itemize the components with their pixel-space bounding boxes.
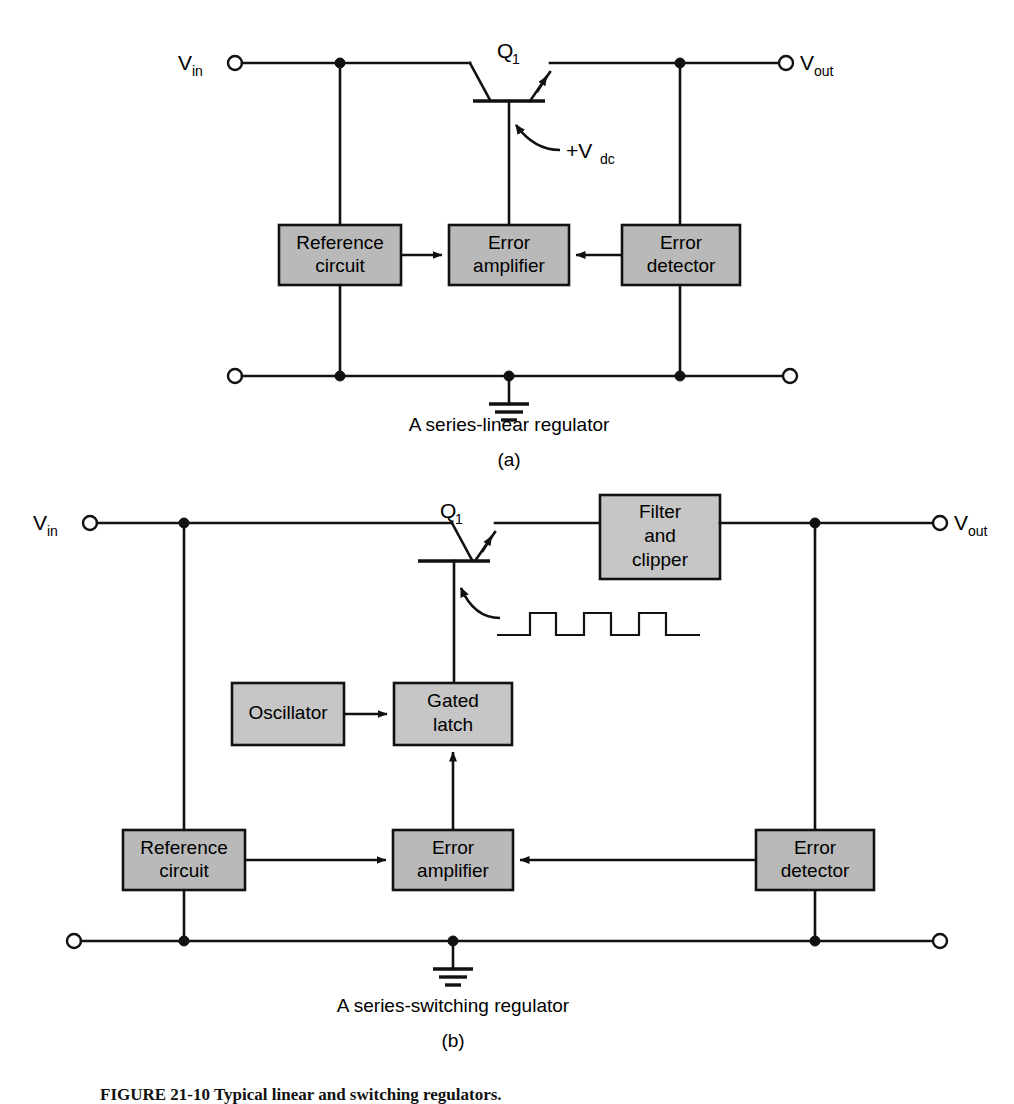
panel-b-vout-sublabel: out <box>968 523 988 539</box>
panel-a-junction-left-bottom <box>335 371 345 381</box>
figure-caption-label: FIGURE 21-10 <box>100 1085 210 1104</box>
panel-a-block-error-amplifier-line1: Error <box>488 232 531 253</box>
panel-a-collector-lead <box>470 63 490 100</box>
panel-a-block-error-detector-line2: detector <box>647 255 716 276</box>
panel-a-vin-terminal <box>228 56 242 70</box>
panel-b-block-oscillator-line1: Oscillator <box>248 702 328 723</box>
panel-b-switch-arrow <box>461 588 500 618</box>
panel-b-transistor-sublabel: 1 <box>455 511 463 527</box>
panel-b-junction-left-bottom <box>179 936 189 946</box>
panel-b-block-gated-latch-line2: latch <box>433 714 473 735</box>
panel-a-bias-arrow <box>516 125 560 150</box>
panel-b-transistor-label: Q <box>440 499 456 522</box>
panel-b-block-error-amplifier-line1: Error <box>432 837 475 858</box>
panel-b-junction-right-bottom <box>810 936 820 946</box>
panel-b-vin-sublabel: in <box>47 523 58 539</box>
panel-a-emitter-arrow <box>537 76 547 92</box>
panel-a-bias-label: +V <box>566 139 592 162</box>
panel-b-collector-lead <box>452 523 472 560</box>
panel-b-vout-terminal <box>933 516 947 530</box>
figure-caption-text: Typical linear and switching regulators. <box>214 1085 502 1104</box>
panel-b-vin-terminal <box>83 516 97 530</box>
panel-b-block-gated-latch-line1: Gated <box>427 690 479 711</box>
panel-b-vout-label: V <box>954 511 968 534</box>
panel-b-bottom-right-terminal <box>933 934 947 948</box>
circuit-diagram: Reference circuit Error amplifier Error … <box>0 0 1014 1104</box>
panel-b-block-error-amplifier-line2: amplifier <box>417 860 489 881</box>
panel-a-vin-sublabel: in <box>192 63 203 79</box>
figure-caption: FIGURE 21-10 Typical linear and switchin… <box>100 1078 950 1104</box>
panel-a-caption: A series-linear regulator <box>409 414 610 435</box>
panel-b-block-reference-line1: Reference <box>140 837 228 858</box>
panel-b-block-reference-line2: circuit <box>159 860 209 881</box>
panel-a-letter: (a) <box>497 449 520 470</box>
panel-a-vout-label: V <box>800 51 814 74</box>
panel-a-transistor-sublabel: 1 <box>512 51 520 67</box>
panel-a-bottom-left-terminal <box>228 369 242 383</box>
panel-a-vout-sublabel: out <box>814 63 834 79</box>
panel-a-block-reference-circuit-line1: Reference <box>296 232 384 253</box>
panel-a-vin-label: V <box>178 51 192 74</box>
panel-b-emitter-arrow <box>482 536 492 552</box>
panel-a-junction-right-bottom <box>675 371 685 381</box>
panel-b-block-error-detector-line2: detector <box>781 860 850 881</box>
panel-b-block-filter-line1: Filter <box>639 501 682 522</box>
panel-a-bottom-right-terminal <box>783 369 797 383</box>
panel-b-block-filter-line3: clipper <box>632 549 689 570</box>
panel-a-block-error-amplifier-line2: amplifier <box>473 255 545 276</box>
panel-a-block-reference-circuit-line2: circuit <box>315 255 365 276</box>
panel-a-transistor-label: Q <box>497 39 513 62</box>
panel-b-letter: (b) <box>441 1030 464 1051</box>
panel-a-vout-terminal <box>779 56 793 70</box>
panel-b-square-waveform <box>497 613 700 635</box>
panel-a-block-error-detector-line1: Error <box>660 232 703 253</box>
panel-b-vin-label: V <box>33 511 47 534</box>
panel-b-bottom-left-terminal <box>67 934 81 948</box>
panel-b-block-filter-line2: and <box>644 525 676 546</box>
figure-container: Reference circuit Error amplifier Error … <box>0 0 1014 1104</box>
panel-b-block-error-detector-line1: Error <box>794 837 837 858</box>
panel-b-caption: A series-switching regulator <box>337 995 570 1016</box>
panel-a-bias-sublabel: dc <box>600 151 615 167</box>
